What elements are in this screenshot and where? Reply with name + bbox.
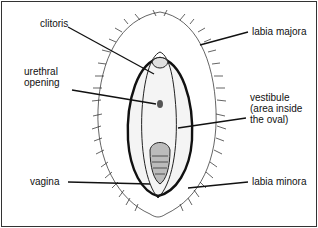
label-clitoris: clitoris [40,18,68,29]
leader-labia-majora [200,32,248,45]
label-labia-minora: labia minora [252,176,306,187]
urethral-opening-drawing [157,100,163,108]
leader-vagina [68,182,150,184]
label-line: urethral [24,66,60,77]
clitoris-drawing [152,58,168,69]
label-line: vestibule [250,92,302,103]
label-urethral-opening: urethral opening [24,66,60,88]
leader-clitoris [68,27,154,74]
label-line: opening [24,77,60,88]
label-line: the oval) [250,114,302,125]
label-vestibule: vestibule (area inside the oval) [250,92,302,125]
label-labia-majora: labia majora [252,26,306,37]
leader-labia-minora [188,182,248,188]
label-line: (area inside [250,103,302,114]
label-vagina: vagina [30,176,59,187]
